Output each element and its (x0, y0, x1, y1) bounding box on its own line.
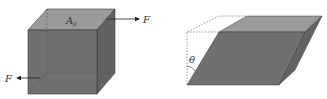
shear-diagram: A 0 F F θ (0, 0, 327, 99)
angle-label: θ (189, 54, 195, 65)
force-label-bottom: F (4, 73, 13, 84)
cube-front-face (28, 30, 97, 94)
area-label: A (65, 15, 73, 26)
area-subscript: 0 (73, 20, 77, 27)
cube-figure: A 0 F F (4, 9, 151, 94)
sheared-block-figure: θ (187, 16, 322, 85)
force-label-top: F (142, 14, 151, 25)
block-top-face (219, 16, 322, 32)
angle-arc (187, 66, 195, 71)
